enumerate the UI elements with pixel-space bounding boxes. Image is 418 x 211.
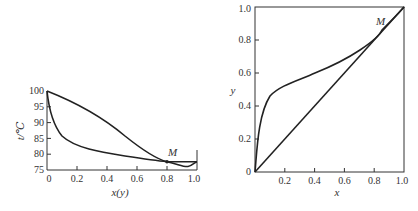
- svg-text:0.2: 0.2: [71, 173, 84, 184]
- svg-text:0.2: 0.2: [239, 133, 252, 144]
- left-m-label: M: [167, 146, 178, 158]
- right-m-label: M: [375, 15, 386, 27]
- svg-text:100: 100: [29, 85, 44, 96]
- svg-text:0.4: 0.4: [308, 175, 321, 186]
- svg-text:75: 75: [34, 164, 44, 175]
- left-y-label: t/℃: [14, 121, 26, 140]
- right-y-label: y: [230, 84, 236, 96]
- right-chart: 0 0.2 0.4 0.6 0.8 1.0 0.2 0.4 0.6 0.8 1.…: [230, 3, 409, 198]
- left-axes-frame: [47, 91, 197, 170]
- svg-text:1.0: 1.0: [188, 173, 201, 184]
- svg-text:90: 90: [34, 117, 44, 128]
- left-chart: 100 95 90 85 80 75 0 0.2 0.4 0.6 0.8 1.0…: [14, 85, 200, 199]
- svg-text:0.8: 0.8: [368, 175, 381, 186]
- left-x-ticks: 0 0.2 0.4 0.6 0.8 1.0: [47, 166, 201, 184]
- svg-text:0.6: 0.6: [338, 175, 351, 186]
- right-x-ticks: 0.2 0.4 0.6 0.8 1.0: [279, 168, 409, 186]
- svg-text:0.6: 0.6: [131, 173, 144, 184]
- svg-text:0: 0: [47, 173, 52, 184]
- charts-canvas: 100 95 90 85 80 75 0 0.2 0.4 0.6 0.8 1.0…: [0, 0, 418, 211]
- svg-text:0.4: 0.4: [239, 100, 252, 111]
- svg-text:0.6: 0.6: [239, 67, 252, 78]
- svg-text:1.0: 1.0: [239, 3, 252, 14]
- svg-text:0: 0: [246, 166, 251, 177]
- svg-text:80: 80: [34, 148, 44, 159]
- left-point-m: [165, 160, 169, 164]
- right-y-ticks: 0 0.2 0.4 0.6 0.8 1.0: [239, 3, 260, 177]
- svg-text:0.8: 0.8: [161, 173, 174, 184]
- svg-text:0.4: 0.4: [101, 173, 114, 184]
- right-x-label: x: [334, 186, 340, 198]
- left-x-label: x(y): [110, 186, 128, 199]
- svg-text:0.8: 0.8: [239, 34, 252, 45]
- svg-text:95: 95: [34, 101, 44, 112]
- svg-text:1.0: 1.0: [396, 175, 409, 186]
- svg-text:85: 85: [34, 133, 44, 144]
- svg-text:0.2: 0.2: [279, 175, 292, 186]
